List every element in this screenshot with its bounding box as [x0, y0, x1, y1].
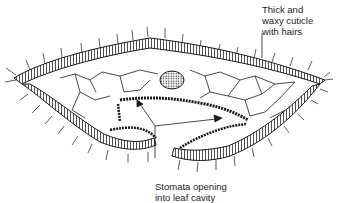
vascular-bundle: [160, 71, 184, 89]
cuticle-label: Thick and waxy cuticle with hairs: [262, 4, 313, 37]
stomata-label: Stomata opening into leaf cavity: [155, 181, 227, 203]
stomata-label-line-1: Stomata opening: [155, 181, 227, 192]
cuticle-label-line-3: with hairs: [262, 26, 313, 37]
arrowhead-left: [137, 100, 143, 107]
stomata-label-line-2: into leaf cavity: [155, 192, 227, 203]
cuticle-label-line-1: Thick and: [262, 4, 313, 15]
lower-epidermis-right: [172, 84, 320, 161]
lower-epidermis-left: [22, 84, 156, 149]
cuticle-label-line-2: waxy cuticle: [262, 15, 313, 26]
arrowhead-right: [214, 115, 222, 122]
